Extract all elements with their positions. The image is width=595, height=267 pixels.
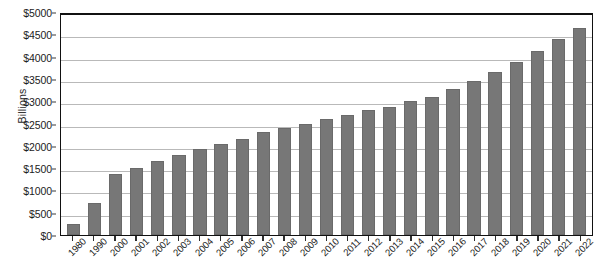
bar-slot — [506, 15, 527, 235]
y-axis-tick-label: $1000 — [23, 185, 52, 197]
bar[interactable] — [404, 101, 417, 235]
bar[interactable] — [172, 155, 185, 235]
bar-slot — [463, 15, 484, 235]
bar-slot — [379, 15, 400, 235]
bar[interactable] — [425, 97, 438, 235]
bar[interactable] — [193, 149, 206, 235]
x-axis-label-slot: 2017 — [464, 241, 485, 267]
bar-slot — [421, 15, 442, 235]
bar[interactable] — [488, 72, 501, 235]
x-axis-label-slot: 2002 — [147, 241, 168, 267]
bar[interactable] — [257, 132, 270, 235]
bar[interactable] — [320, 119, 333, 235]
x-axis-label-slot: 2021 — [549, 241, 570, 267]
y-axis-tick-label: $0 — [41, 230, 52, 242]
bar-slot — [400, 15, 421, 235]
bar-slot — [274, 15, 295, 235]
x-axis-label-slot: 2011 — [337, 241, 358, 267]
bar[interactable] — [573, 28, 586, 235]
x-axis-label-slot: 2000 — [104, 241, 125, 267]
bar-slot — [569, 15, 590, 235]
bar[interactable] — [278, 128, 291, 235]
x-axis-label-slot: 2016 — [443, 241, 464, 267]
bar[interactable] — [446, 89, 459, 235]
y-axis-tick-mark — [52, 57, 56, 58]
bar-slot — [358, 15, 379, 235]
x-axis-label-slot: 2015 — [422, 241, 443, 267]
bar-slot — [147, 15, 168, 235]
bar-slot — [232, 15, 253, 235]
bar[interactable] — [67, 224, 80, 235]
x-axis-tick-labels: 1980199020002001200220032004200520062007… — [60, 241, 593, 267]
bar-slot — [527, 15, 548, 235]
bar[interactable] — [130, 168, 143, 235]
plot-area — [60, 13, 593, 236]
y-axis-tick-mark — [52, 213, 56, 214]
bar-slot — [168, 15, 189, 235]
x-axis-label-slot: 2008 — [274, 241, 295, 267]
bar[interactable] — [299, 124, 312, 236]
bar-slot — [253, 15, 274, 235]
bar-slot — [189, 15, 210, 235]
y-axis-tick-label: $1500 — [23, 163, 52, 175]
y-axis-tick-mark — [52, 124, 56, 125]
y-axis-tick-mark — [52, 102, 56, 103]
x-axis-label-slot: 2004 — [189, 241, 210, 267]
y-axis-tick-mark — [52, 146, 56, 147]
bar-slot — [442, 15, 463, 235]
bar[interactable] — [467, 81, 480, 235]
y-axis-tick-mark — [52, 236, 56, 237]
x-axis-label-slot: 2014 — [401, 241, 422, 267]
bar-slot — [316, 15, 337, 235]
bar[interactable] — [88, 203, 101, 235]
bar-slot — [126, 15, 147, 235]
y-axis-tick-mark — [52, 13, 56, 14]
bar-slot — [295, 15, 316, 235]
bar-slot — [84, 15, 105, 235]
x-axis-label-slot: 2020 — [527, 241, 548, 267]
x-axis-label-slot: 2001 — [125, 241, 146, 267]
bar[interactable] — [510, 62, 523, 235]
x-axis-label-slot: 1990 — [83, 241, 104, 267]
bar-slot — [548, 15, 569, 235]
x-axis-label-slot: 2009 — [295, 241, 316, 267]
bar[interactable] — [236, 139, 249, 235]
y-axis-tick-mark — [52, 169, 56, 170]
x-axis-label-slot: 2006 — [231, 241, 252, 267]
bars-container — [61, 15, 592, 235]
x-axis-label-slot: 2003 — [168, 241, 189, 267]
x-axis-label-slot: 2010 — [316, 241, 337, 267]
y-axis-tick-label: $3500 — [23, 74, 52, 86]
bar[interactable] — [531, 51, 544, 235]
y-axis-tick-label: $5000 — [23, 7, 52, 19]
bar[interactable] — [383, 107, 396, 235]
y-axis-tick-mark — [52, 79, 56, 80]
x-axis-label-slot: 2019 — [506, 241, 527, 267]
y-axis-tick-label: $2000 — [23, 141, 52, 153]
y-axis-tick-label: $500 — [29, 208, 52, 220]
bar-slot — [105, 15, 126, 235]
y-axis-tick-label: $3000 — [23, 96, 52, 108]
y-axis-tick-labels: $5000$4500$4000$3500$3000$2500$2000$1500… — [0, 13, 56, 236]
x-axis-label-slot: 2018 — [485, 241, 506, 267]
x-axis-label-slot: 2013 — [379, 241, 400, 267]
bar-chart: Billions $5000$4500$4000$3500$3000$2500$… — [0, 0, 595, 267]
y-axis-tick-label: $4500 — [23, 29, 52, 41]
bar[interactable] — [552, 39, 565, 235]
bar[interactable] — [341, 115, 354, 235]
bar-slot — [63, 15, 84, 235]
y-axis-tick-label: $2500 — [23, 119, 52, 131]
y-axis-tick-mark — [52, 191, 56, 192]
bar[interactable] — [362, 110, 375, 235]
y-axis-tick-label: $4000 — [23, 52, 52, 64]
bar[interactable] — [214, 144, 227, 235]
bar[interactable] — [151, 161, 164, 235]
x-axis-label-slot: 2005 — [210, 241, 231, 267]
x-axis-label-slot: 2007 — [252, 241, 273, 267]
bar[interactable] — [109, 174, 122, 235]
bar-slot — [337, 15, 358, 235]
x-axis-label-slot: 1980 — [62, 241, 83, 267]
x-axis-label-slot: 2012 — [358, 241, 379, 267]
x-axis-label-slot: 2022 — [570, 241, 591, 267]
y-axis-tick-mark — [52, 35, 56, 36]
